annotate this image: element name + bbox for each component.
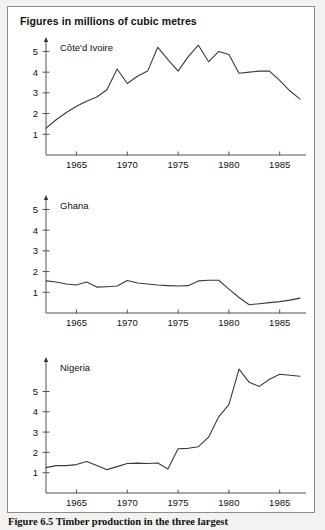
y-tick-label: 1 <box>33 129 38 140</box>
y-tick-label: 3 <box>33 427 38 438</box>
data-line-ghana <box>46 280 300 304</box>
figure-title: Figures in millions of cubic metres <box>20 15 197 27</box>
x-tick-label: 1975 <box>168 497 189 508</box>
y-axis-arrow-icon <box>44 195 48 200</box>
y-tick-label: 1 <box>33 287 38 298</box>
data-line-cote-divoire <box>46 45 300 128</box>
y-tick-label: 5 <box>33 204 38 215</box>
chart-svg-cote-divoire: 1234519651970197519801985Côte'd Ivoire <box>8 29 314 179</box>
y-tick-label: 1 <box>33 467 38 478</box>
x-tick-label: 1985 <box>269 497 290 508</box>
y-tick-label: 2 <box>33 447 38 458</box>
x-tick-label: 1965 <box>66 159 87 170</box>
y-tick-label: 2 <box>33 266 38 277</box>
x-tick-label: 1975 <box>168 159 189 170</box>
y-tick-label: 4 <box>33 67 38 78</box>
y-tick-label: 4 <box>33 225 38 236</box>
y-tick-label: 2 <box>33 108 38 119</box>
x-tick-label: 1970 <box>117 159 138 170</box>
figure-caption: Figure 6.5 Timber production in the thre… <box>8 516 320 528</box>
x-tick-label: 1965 <box>66 317 87 328</box>
x-tick-label: 1985 <box>269 159 290 170</box>
chart-svg-ghana: 1234519651970197519801985Ghana <box>8 187 314 337</box>
figure-screenshot: Figures in millions of cubic metres 1234… <box>0 0 325 530</box>
x-tick-label: 1970 <box>117 497 138 508</box>
chart-panel-cote-divoire: 1234519651970197519801985Côte'd Ivoire <box>8 29 314 179</box>
y-tick-label: 4 <box>33 406 38 417</box>
y-tick-label: 5 <box>33 46 38 57</box>
x-tick-label: 1980 <box>218 159 239 170</box>
chart-svg-nigeria: 1234519651970197519801985Nigeria <box>8 349 314 517</box>
series-label-nigeria: Nigeria <box>60 362 91 373</box>
y-axis-arrow-icon <box>44 37 48 42</box>
chart-panel-nigeria: 1234519651970197519801985Nigeria <box>8 349 314 517</box>
y-tick-label: 3 <box>33 245 38 256</box>
chart-panel-ghana: 1234519651970197519801985Ghana <box>8 187 314 337</box>
y-tick-label: 5 <box>33 386 38 397</box>
data-line-nigeria <box>46 369 300 470</box>
x-tick-label: 1975 <box>168 317 189 328</box>
series-label-cote-divoire: Côte'd Ivoire <box>60 42 113 53</box>
x-tick-label: 1980 <box>218 497 239 508</box>
x-tick-label: 1985 <box>269 317 290 328</box>
series-label-ghana: Ghana <box>60 200 89 211</box>
x-tick-label: 1965 <box>66 497 87 508</box>
y-axis-arrow-icon <box>44 357 48 362</box>
x-tick-label: 1980 <box>218 317 239 328</box>
figure-frame: Figures in millions of cubic metres 1234… <box>7 6 315 513</box>
y-tick-label: 3 <box>33 87 38 98</box>
x-tick-label: 1970 <box>117 317 138 328</box>
